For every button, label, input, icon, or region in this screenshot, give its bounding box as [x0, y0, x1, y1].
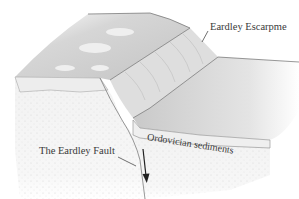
escarpment-label: Eardley Escarpme — [210, 22, 287, 33]
escarpment-leader-line — [202, 31, 208, 42]
fault-label: The Eardley Fault — [39, 146, 115, 157]
upper-layer-band — [15, 77, 108, 92]
